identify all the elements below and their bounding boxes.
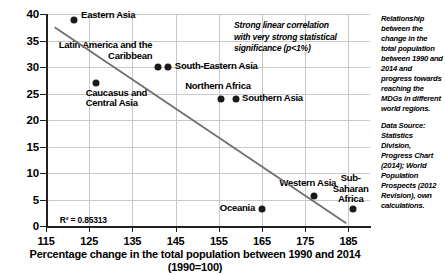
- caption-description: Relationship between the change in the t…: [381, 14, 443, 114]
- x-axis-title: Percentage change in the total populatio…: [20, 248, 370, 274]
- y-tick-label: 5: [33, 194, 39, 206]
- r-squared-label: R² = 0.85313: [60, 215, 107, 225]
- y-tick-mark: [40, 147, 46, 148]
- x-tick-label: 155: [210, 235, 228, 247]
- x-tick-mark: [89, 228, 90, 232]
- x-tick-mark: [305, 228, 306, 232]
- y-tick-label: 15: [27, 141, 39, 153]
- x-tick-label: 145: [167, 235, 185, 247]
- y-tick-mark: [40, 120, 46, 121]
- y-tick-label: 10: [27, 167, 39, 179]
- y-tick-label: 0: [33, 220, 39, 232]
- x-tick-mark: [219, 228, 220, 232]
- correlation-annotation: Strong linear correlation with very stro…: [234, 20, 346, 55]
- y-tick-mark: [40, 226, 46, 227]
- x-axis: [46, 226, 371, 228]
- y-tick-label: 30: [27, 61, 39, 73]
- x-axis-title-line2: (1990=100): [20, 261, 370, 274]
- x-tick-mark: [176, 228, 177, 232]
- y-tick-mark: [40, 173, 46, 174]
- x-axis-title-line1: Percentage change in the total populatio…: [20, 248, 370, 261]
- y-tick-mark: [40, 67, 46, 68]
- x-tick-label: 185: [340, 235, 358, 247]
- caption-source: Data Source: Statistics Division, Progre…: [381, 121, 443, 211]
- y-tick-label: 40: [27, 8, 39, 20]
- y-tick-mark: [40, 14, 46, 15]
- chart-figure: Eastern AsiaCaucasus and Central AsiaLat…: [0, 0, 445, 275]
- x-tick-label: 115: [37, 235, 54, 247]
- x-tick-label: 125: [80, 235, 98, 247]
- y-tick-label: 35: [27, 35, 39, 47]
- y-tick-label: 25: [27, 88, 39, 100]
- x-tick-mark: [262, 228, 263, 232]
- y-tick-label: 20: [27, 114, 39, 126]
- x-tick-label: 165: [253, 235, 271, 247]
- x-tick-label: 175: [296, 235, 314, 247]
- y-tick-mark: [40, 94, 46, 95]
- y-tick-mark: [40, 200, 46, 201]
- side-caption: Relationship between the change in the t…: [381, 14, 443, 218]
- y-axis: [46, 14, 48, 227]
- y-tick-mark: [40, 41, 46, 42]
- x-tick-mark: [132, 228, 133, 232]
- x-tick-mark: [348, 228, 349, 232]
- x-tick-label: 135: [124, 235, 142, 247]
- x-tick-mark: [46, 228, 47, 232]
